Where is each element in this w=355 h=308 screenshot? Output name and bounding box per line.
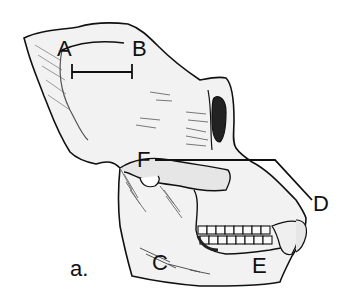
label-c: C <box>152 252 168 274</box>
skull-illustration <box>0 0 355 308</box>
cranium-outline <box>24 23 306 286</box>
label-a: A <box>57 38 72 60</box>
label-f: F <box>137 149 150 171</box>
panel-label: a. <box>70 258 88 280</box>
label-b: B <box>132 38 147 60</box>
label-e: E <box>252 255 267 277</box>
skull-diagram: A B F D C E a. <box>0 0 355 308</box>
label-d: D <box>313 193 329 215</box>
